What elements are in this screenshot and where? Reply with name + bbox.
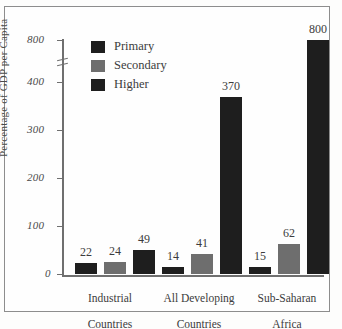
y-axis-title: Percentage of GDP per Capita — [0, 19, 9, 157]
bar-industrial-primary — [75, 263, 97, 274]
bar-label-industrial-higher: 49 — [133, 232, 155, 247]
bar-label-industrial-primary: 22 — [75, 245, 97, 260]
bar-developing-primary — [162, 267, 184, 274]
y-tick-label-0: 0 — [45, 267, 51, 279]
bar-label-developing-primary: 14 — [162, 249, 184, 264]
category-label-industrial-line1: Industrial — [67, 292, 153, 305]
scanned-page: 800 400 300 200 100 0 Percentage of GDP … — [0, 0, 342, 329]
bar-label-developing-higher: 370 — [216, 79, 246, 94]
bar-africa-secondary — [278, 244, 300, 274]
y-tick-label-300: 300 — [27, 123, 44, 135]
y-tick-label-800: 800 — [27, 33, 44, 45]
bar-africa-higher — [307, 40, 329, 274]
category-label-industrial: Industrial Countries — [67, 279, 153, 329]
category-label-africa: Sub-Saharan Africa — [243, 279, 331, 329]
bar-label-africa-primary: 15 — [249, 249, 271, 264]
bar-developing-higher — [220, 97, 242, 274]
category-label-developing-line1: All Developing — [151, 292, 247, 305]
bar-label-africa-higher: 800 — [303, 22, 333, 37]
plot-area: 22 24 49 14 41 370 15 62 800 — [63, 40, 323, 274]
bar-developing-secondary — [191, 254, 213, 274]
bar-africa-primary — [249, 267, 271, 274]
bar-label-industrial-secondary: 24 — [104, 244, 126, 259]
y-tick-label-400: 400 — [27, 75, 44, 87]
bar-industrial-secondary — [104, 262, 126, 274]
bar-label-developing-secondary: 41 — [191, 236, 213, 251]
bar-industrial-higher — [133, 250, 155, 274]
x-axis-line — [62, 275, 324, 277]
y-tick-label-200: 200 — [27, 171, 44, 183]
bar-label-africa-secondary: 62 — [278, 226, 300, 241]
category-label-industrial-line2: Countries — [67, 318, 153, 329]
figure-frame: 800 400 300 200 100 0 Percentage of GDP … — [4, 6, 330, 312]
y-tick-label-100: 100 — [27, 219, 44, 231]
category-label-africa-line2: Africa — [243, 318, 331, 329]
category-label-developing: All Developing Countries — [151, 279, 247, 329]
category-label-africa-line1: Sub-Saharan — [243, 292, 331, 305]
category-label-developing-line2: Countries — [151, 318, 247, 329]
y-tick-0 — [57, 274, 63, 275]
